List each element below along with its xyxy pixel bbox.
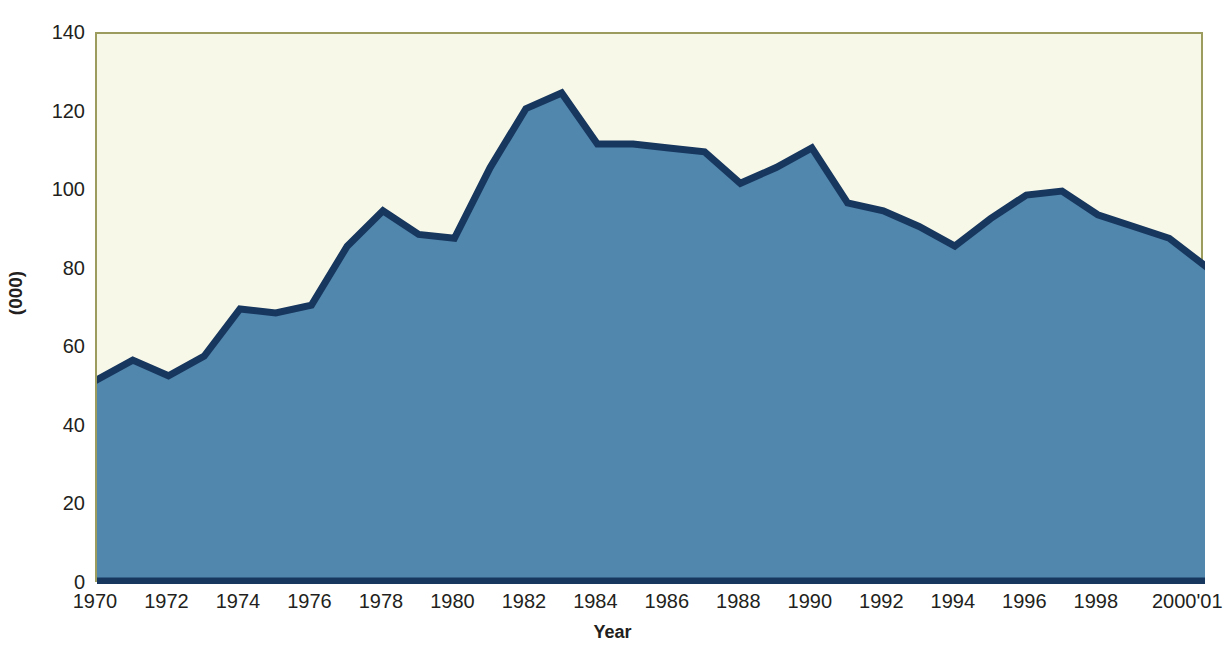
x-tick-label: 2000'01 [1152,590,1223,613]
x-axis-title: Year [0,622,1225,643]
area-series-svg [97,34,1205,584]
x-tick-label: 1978 [359,590,404,613]
plot-area [95,32,1203,582]
x-tick-label: 1980 [430,590,475,613]
x-tick-label: 1982 [502,590,547,613]
x-tick-label: 1974 [216,590,261,613]
x-tick-label: 1992 [859,590,904,613]
area-chart: (000) 140120100806040200 197019721974197… [0,0,1225,664]
y-tick-label: 140 [25,22,85,42]
y-tick-label: 80 [25,258,85,278]
area-fill-shape [97,93,1205,584]
x-tick-label: 1996 [1002,590,1047,613]
x-tick-label: 1988 [716,590,761,613]
x-tick-label: 1970 [73,590,118,613]
y-tick-label: 40 [25,415,85,435]
y-tick-label: 120 [25,101,85,121]
y-tick-label: 100 [25,179,85,199]
y-tick-label: 60 [25,336,85,356]
x-tick-label: 1998 [1074,590,1119,613]
x-tick-label: 1984 [573,590,618,613]
x-tick-label: 1994 [931,590,976,613]
y-tick-label: 20 [25,493,85,513]
x-tick-label: 1986 [645,590,690,613]
x-tick-label: 1990 [788,590,833,613]
y-axis-title: (000) [5,271,27,315]
x-tick-label: 1976 [287,590,332,613]
y-tick-label: 0 [25,572,85,592]
x-tick-label: 1972 [144,590,189,613]
